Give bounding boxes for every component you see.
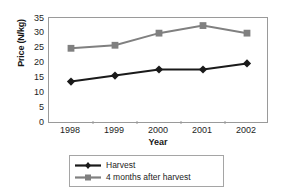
- y-tick-label: 25: [28, 43, 44, 52]
- y-axis-tick-labels: 35 30 25 20 15 10 5 0: [26, 0, 44, 190]
- y-tick-label: 30: [28, 28, 44, 37]
- y-axis-title: Price (N/kg): [16, 0, 26, 90]
- legend-item-after-harvest: 4 months after harvest: [74, 171, 218, 183]
- y-tick-label: 15: [28, 73, 44, 82]
- x-axis-title: Year: [48, 137, 268, 147]
- legend-label-harvest: Harvest: [106, 160, 135, 170]
- data-point-marker: [199, 65, 207, 73]
- data-point-marker: [111, 71, 119, 79]
- legend-item-harvest: Harvest: [74, 159, 218, 171]
- data-point-marker: [155, 65, 163, 73]
- plot-area: [48, 17, 268, 123]
- data-point-marker: [244, 30, 251, 37]
- legend-swatch-after-harvest: [74, 172, 102, 183]
- plot-canvas: [49, 18, 269, 124]
- data-point-marker: [112, 42, 119, 49]
- legend-label-after-harvest: 4 months after harvest: [106, 172, 191, 182]
- y-tick-label: 20: [28, 58, 44, 67]
- data-point-marker: [200, 22, 207, 29]
- chart-legend: Harvest 4 months after harvest: [69, 155, 224, 187]
- series-line: [71, 26, 247, 49]
- y-tick-label: 5: [28, 103, 44, 112]
- y-tick-label: 35: [28, 14, 44, 23]
- y-tick-label: 0: [28, 118, 44, 127]
- data-point-marker: [67, 78, 75, 86]
- legend-swatch-harvest: [74, 160, 102, 171]
- line-chart-figure: Price (N/kg) 35 30 25 20 15 10 5 0 1998 …: [0, 0, 285, 190]
- data-point-marker: [156, 30, 163, 37]
- data-point-marker: [243, 59, 251, 67]
- y-tick-label: 10: [28, 88, 44, 97]
- data-point-marker: [68, 45, 75, 52]
